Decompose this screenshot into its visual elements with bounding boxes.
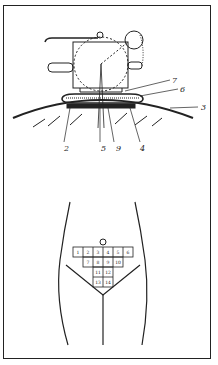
zone-cell-2: 2 xyxy=(87,250,90,255)
handle-wire xyxy=(45,38,98,42)
zone-cell-8: 8 xyxy=(97,260,100,265)
patent-diagram: 1234567891011121314 7632594 xyxy=(0,0,218,365)
navel xyxy=(100,239,106,245)
side-pin xyxy=(48,63,73,72)
zone-cell-14: 14 xyxy=(105,280,111,285)
zone-cell-1: 1 xyxy=(77,250,80,255)
zone-cell-3: 3 xyxy=(97,250,100,255)
zone-cell-4: 4 xyxy=(107,250,110,255)
plate-2 xyxy=(67,104,135,108)
zone-cell-9: 9 xyxy=(107,260,110,265)
torso-right xyxy=(135,202,147,345)
torso-left xyxy=(59,202,70,345)
part-label-9: 9 xyxy=(116,144,121,153)
part-label-5: 5 xyxy=(101,144,106,153)
zone-cell-6: 6 xyxy=(127,250,130,255)
zone-cell-13: 13 xyxy=(95,280,101,285)
part-label-2: 2 xyxy=(63,144,69,153)
part-label-6: 6 xyxy=(180,85,185,94)
part-label-3: 3 xyxy=(201,103,206,112)
zone-cell-5: 5 xyxy=(117,250,120,255)
knob xyxy=(125,31,143,49)
zone-grid xyxy=(73,247,133,287)
zone-cell-7: 7 xyxy=(87,260,90,265)
part-label-7: 7 xyxy=(172,76,178,85)
zone-cell-10: 10 xyxy=(115,260,121,265)
part-label-4: 4 xyxy=(139,144,145,153)
zone-cell-11: 11 xyxy=(95,270,101,275)
zone-cell-12: 12 xyxy=(105,270,111,275)
